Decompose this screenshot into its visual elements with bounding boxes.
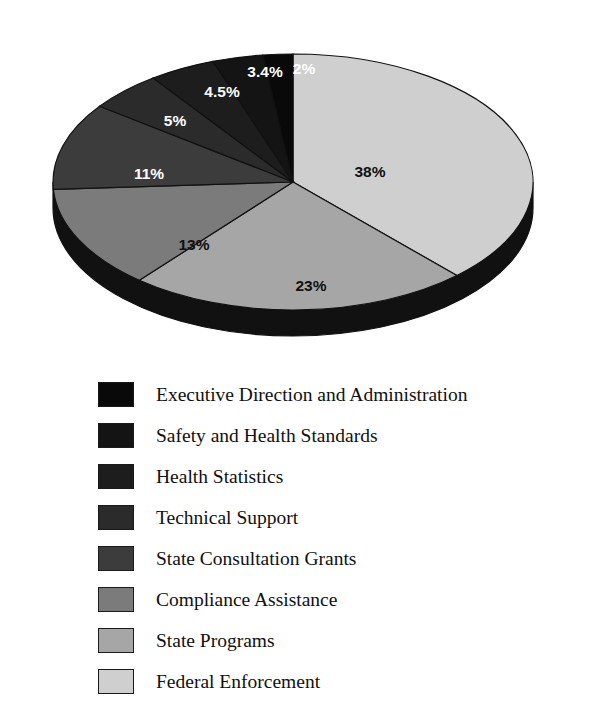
- legend-item[interactable]: Health Statistics: [98, 456, 568, 497]
- legend-item-label: State Consultation Grants: [156, 549, 356, 569]
- pie-chart-plot-area: 38%23%13%11%5%4.5%3.4%2%: [18, 18, 576, 348]
- legend-item[interactable]: Technical Support: [98, 497, 568, 538]
- pie-slice-value-label: 5%: [164, 112, 187, 129]
- legend-item-label: Compliance Assistance: [156, 590, 337, 610]
- legend-item-label: Executive Direction and Administration: [156, 385, 467, 405]
- pie-slice-value-label: 3.4%: [247, 63, 283, 80]
- legend-item[interactable]: Federal Enforcement: [98, 661, 568, 702]
- legend-item[interactable]: Compliance Assistance: [98, 579, 568, 620]
- pie-slice-value-label: 38%: [354, 163, 385, 180]
- legend-color-swatch: [98, 669, 134, 694]
- legend-color-swatch: [98, 505, 134, 530]
- pie-slice-value-label: 2%: [293, 60, 316, 77]
- legend-color-swatch: [98, 628, 134, 653]
- legend-color-swatch: [98, 423, 134, 448]
- pie-slices-group: [53, 54, 533, 310]
- legend-item[interactable]: Safety and Health Standards: [98, 415, 568, 456]
- legend-color-swatch: [98, 464, 134, 489]
- legend-item[interactable]: Executive Direction and Administration: [98, 374, 568, 415]
- legend-color-swatch: [98, 546, 134, 571]
- legend-item[interactable]: State Consultation Grants: [98, 538, 568, 579]
- legend-item-label: Technical Support: [156, 508, 298, 528]
- chart-legend: Executive Direction and AdministrationSa…: [98, 374, 568, 702]
- pie-slice-value-label: 4.5%: [204, 83, 240, 100]
- legend-color-swatch: [98, 382, 134, 407]
- pie-chart-figure: 38%23%13%11%5%4.5%3.4%2% Executive Direc…: [0, 0, 594, 709]
- legend-item-label: State Programs: [156, 631, 275, 651]
- pie-slice-value-label: 23%: [295, 277, 326, 294]
- legend-item-label: Safety and Health Standards: [156, 426, 377, 446]
- legend-item[interactable]: State Programs: [98, 620, 568, 661]
- legend-color-swatch: [98, 587, 134, 612]
- legend-item-label: Federal Enforcement: [156, 672, 320, 692]
- pie-slice-value-label: 11%: [134, 165, 164, 182]
- pie-slice-value-label: 13%: [178, 236, 209, 253]
- pie-chart-svg: 38%23%13%11%5%4.5%3.4%2%: [18, 18, 576, 348]
- legend-item-label: Health Statistics: [156, 467, 283, 487]
